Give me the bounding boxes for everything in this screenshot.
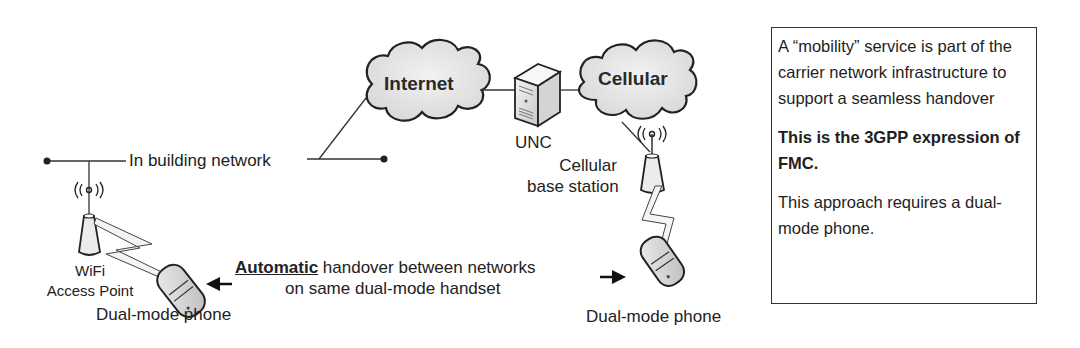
fmc-diagram: Internet Cellular In building network UN… [0, 0, 1080, 348]
cellular-cloud-label: Cellular [598, 68, 668, 90]
mobile-phone-icon [636, 232, 689, 291]
arrow-icon [600, 270, 626, 284]
handover-caption-line2: on same dual-mode handset [285, 279, 500, 299]
network-endpoint-icon [381, 156, 388, 163]
in-building-network-label: In building network [129, 151, 271, 171]
handover-caption-line1: Automatic handover between networks [235, 258, 535, 278]
internet-cloud-label: Internet [384, 73, 454, 95]
note-paragraph-3gpp: This is the 3GPP expression of FMC. [778, 124, 1030, 176]
handover-caption-rest: handover between networks [318, 258, 535, 277]
dual-mode-phone-right-label: Dual-mode phone [586, 307, 721, 327]
arrow-icon [206, 277, 232, 291]
network-endpoint-icon [44, 158, 51, 165]
note-paragraph-mobility: A “mobility” service is part of the carr… [778, 33, 1030, 111]
server-icon [515, 64, 560, 126]
cellular-base-station-label-line1: Cellular [538, 156, 638, 176]
wifi-ap-label-line2: Access Point [30, 282, 150, 299]
cellular-base-station-label-line2: base station [527, 177, 619, 197]
note-paragraph-requirement: This approach requires a dual-mode phone… [778, 189, 1030, 241]
wireless-access-point-icon [75, 182, 103, 255]
unc-label: UNC [515, 133, 552, 153]
explanation-note-box: A “mobility” service is part of the carr… [771, 27, 1037, 304]
automatic-emphasis: Automatic [235, 258, 318, 277]
dual-mode-phone-left-label: Dual-mode phone [96, 305, 231, 325]
wifi-ap-label-line1: WiFi [35, 262, 145, 279]
